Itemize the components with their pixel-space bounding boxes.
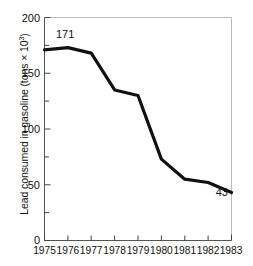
x-tick-label-1978: 1978: [103, 245, 126, 256]
x-tick-label-1975: 1975: [33, 245, 56, 256]
plot-frame: [45, 18, 232, 241]
x-tick-label-1980: 1980: [150, 245, 173, 256]
annotation-end-value: 43: [216, 186, 228, 198]
x-tick-label-1979: 1979: [127, 245, 150, 256]
x-tick-label-1977: 1977: [80, 245, 103, 256]
x-axis-tick-labels: 1975 1976 1977 1978 1979 1980 1981 1982 …: [33, 245, 242, 256]
y-axis-title-tail: ): [18, 33, 30, 36]
annotation-start-value: 171: [56, 28, 74, 40]
y-axis-title: Lead consumed in gasoline (tons × 103): [16, 4, 32, 244]
x-axis-ticks: [45, 235, 232, 241]
x-tick-label-1983: 1983: [220, 245, 243, 256]
y-axis-title-exponent: 3: [18, 37, 25, 41]
data-series-line: [45, 48, 232, 193]
x-tick-label-1976: 1976: [57, 245, 80, 256]
x-tick-label-1981: 1981: [173, 245, 196, 256]
x-tick-label-1982: 1982: [197, 245, 220, 256]
line-chart-svg: 0 50 100 150 200 1975 1976 1977 1978 197…: [0, 0, 253, 266]
chart-figure: Lead consumed in gasoline (tons × 103): [0, 0, 253, 266]
y-axis-title-main: Lead consumed in gasoline (tons × 10: [18, 41, 30, 215]
